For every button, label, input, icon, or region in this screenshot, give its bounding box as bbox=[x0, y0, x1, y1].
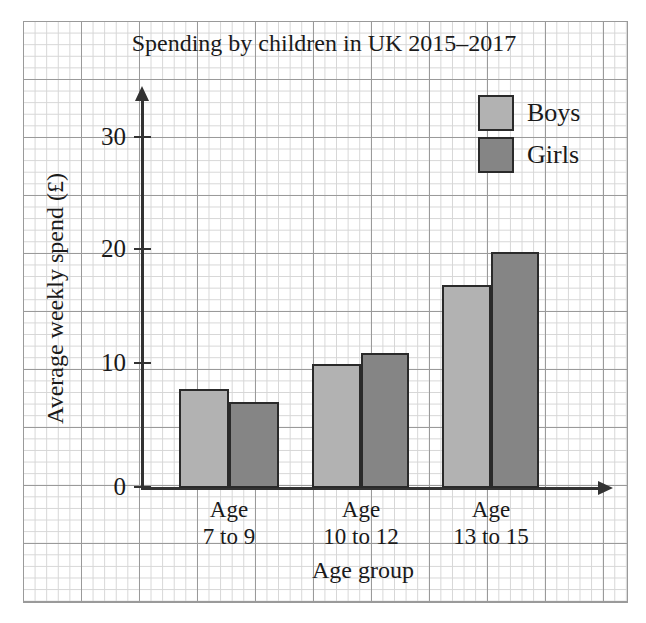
bar-boys-age-13-to-15 bbox=[442, 285, 491, 488]
x-category-line-2: 7 to 9 bbox=[154, 523, 304, 550]
graph-paper-bottom-edge bbox=[23, 602, 628, 603]
x-category-label-age-10-to-12: Age 10 to 12 bbox=[286, 496, 436, 550]
bar-girls-age-10-to-12 bbox=[361, 353, 409, 488]
y-axis-title: Average weekly spend (£) bbox=[42, 139, 69, 459]
graph-paper-right-edge bbox=[627, 21, 628, 603]
bar-girls-age-7-to-9 bbox=[229, 402, 279, 488]
x-axis-title: Age group bbox=[253, 557, 473, 584]
x-category-line-1: Age bbox=[416, 496, 566, 523]
bar-boys-age-10-to-12 bbox=[312, 364, 361, 488]
x-category-line-1: Age bbox=[286, 496, 436, 523]
x-category-label-age-7-to-9: Age 7 to 9 bbox=[154, 496, 304, 550]
chart-page: Spending by children in UK 2015–2017 0 1… bbox=[0, 0, 646, 623]
y-tick-label-0: 0 bbox=[56, 474, 126, 499]
y-tick-30 bbox=[134, 136, 151, 138]
y-tick-0 bbox=[134, 486, 151, 488]
y-tick-20 bbox=[134, 248, 151, 250]
legend-swatch-girls bbox=[478, 137, 514, 173]
bar-boys-age-7-to-9 bbox=[179, 389, 229, 488]
x-category-line-1: Age bbox=[154, 496, 304, 523]
legend-swatch-boys bbox=[478, 95, 514, 131]
x-category-line-2: 13 to 15 bbox=[416, 523, 566, 550]
x-category-label-age-13-to-15: Age 13 to 15 bbox=[416, 496, 566, 550]
x-category-line-2: 10 to 12 bbox=[286, 523, 436, 550]
legend-label-girls: Girls bbox=[527, 137, 579, 173]
chart-title: Spending by children in UK 2015–2017 bbox=[84, 28, 564, 58]
legend-label-boys: Boys bbox=[527, 95, 580, 131]
x-axis-arrow-icon bbox=[598, 481, 613, 495]
y-tick-10 bbox=[134, 362, 151, 364]
bar-girls-age-13-to-15 bbox=[491, 252, 539, 488]
y-axis-arrow-icon bbox=[135, 86, 149, 101]
y-axis-line bbox=[141, 99, 144, 488]
